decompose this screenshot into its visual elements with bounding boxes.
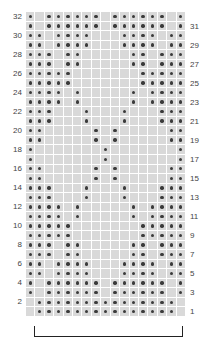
chart-cell-dot	[158, 212, 166, 221]
chart-cell-dot	[139, 41, 147, 50]
chart-cell-dot	[148, 231, 156, 240]
chart-cell-dot	[158, 79, 166, 88]
chart-cell-dot	[54, 260, 62, 269]
chart-cell-empty	[148, 165, 156, 174]
chart-cell-empty	[92, 184, 100, 193]
chart-cell-empty	[111, 203, 119, 212]
chart-cell-empty	[64, 165, 72, 174]
chart-cell-empty	[101, 269, 109, 278]
chart-cell-dot	[167, 41, 175, 50]
chart-cell-dot	[54, 41, 62, 50]
chart-cell-dot	[45, 98, 53, 107]
chart-cell-empty	[54, 193, 62, 202]
chart-cell-dot	[26, 107, 34, 116]
chart-cell-dot	[64, 22, 72, 31]
chart-cell-empty	[82, 69, 90, 78]
chart-cell-empty	[54, 50, 62, 59]
chart-cell-empty	[139, 107, 147, 116]
chart-cell-dot	[54, 31, 62, 40]
chart-cell-empty	[148, 107, 156, 116]
chart-cell-empty	[73, 174, 81, 183]
chart-cell-empty	[139, 193, 147, 202]
chart-cell-dot	[167, 117, 175, 126]
chart-cell-empty	[111, 231, 119, 240]
chart-cell-dot	[120, 269, 128, 278]
chart-cell-dot	[177, 145, 185, 154]
chart-cell-dot	[177, 165, 185, 174]
chart-cell-dot	[45, 222, 53, 231]
chart-cell-dot	[35, 184, 43, 193]
chart-cell-dot	[139, 250, 147, 259]
chart-cell-dot	[35, 98, 43, 107]
chart-cell-empty	[82, 98, 90, 107]
chart-cell-empty	[82, 165, 90, 174]
chart-cell-empty	[139, 117, 147, 126]
chart-cell-dot	[54, 298, 62, 307]
chart-cell-dot	[120, 41, 128, 50]
chart-cell-dot	[177, 126, 185, 135]
chart-cell-dot	[73, 260, 81, 269]
chart-cell-empty	[54, 126, 62, 135]
chart-cell-empty	[64, 212, 72, 221]
chart-cell-empty	[92, 41, 100, 50]
chart-cell-empty	[101, 22, 109, 31]
chart-cell-empty	[120, 203, 128, 212]
chart-cell-dot	[26, 231, 34, 240]
chart-cell-dot	[101, 145, 109, 154]
chart-cell-empty	[139, 203, 147, 212]
chart-cell-empty	[148, 145, 156, 154]
chart-cell-dot	[120, 22, 128, 31]
chart-cell-empty	[73, 145, 81, 154]
chart-cell-dot	[130, 279, 138, 288]
chart-cell-empty	[92, 231, 100, 240]
chart-cell-dot	[167, 212, 175, 221]
chart-cell-dot	[130, 307, 138, 316]
chart-cell-dot	[130, 269, 138, 278]
chart-cell-dot	[158, 279, 166, 288]
chart-cell-dot	[26, 212, 34, 221]
chart-cell-dot	[92, 279, 100, 288]
chart-cell-dot	[35, 193, 43, 202]
chart-cell-empty	[111, 212, 119, 221]
chart-cell-empty	[92, 145, 100, 154]
chart-cell-empty	[101, 117, 109, 126]
chart-cell-empty	[130, 231, 138, 240]
chart-cell-dot	[130, 288, 138, 297]
chart-cell-dot	[158, 98, 166, 107]
chart-cell-dot	[26, 184, 34, 193]
chart-cell-empty	[120, 69, 128, 78]
chart-cell-empty	[45, 155, 53, 164]
chart-cell-empty	[130, 126, 138, 135]
chart-cell-dot	[26, 22, 34, 31]
chart-cell-dot	[64, 12, 72, 21]
chart-cell-empty	[139, 98, 147, 107]
chart-cell-dot	[35, 241, 43, 250]
chart-cell-empty	[130, 184, 138, 193]
chart-cell-empty	[54, 155, 62, 164]
chart-cell-dot	[54, 279, 62, 288]
chart-cell-dot	[54, 288, 62, 297]
chart-cell-dot	[45, 212, 53, 221]
chart-cell-dot	[54, 79, 62, 88]
chart-cell-dot	[158, 222, 166, 231]
chart-cell-dot	[45, 203, 53, 212]
chart-cell-dot	[82, 279, 90, 288]
chart-cell-empty	[45, 260, 53, 269]
chart-cell-dot	[139, 22, 147, 31]
chart-cell-dot	[167, 165, 175, 174]
chart-cell-empty	[54, 145, 62, 154]
chart-cell-dot	[54, 22, 62, 31]
chart-cell-empty	[35, 155, 43, 164]
chart-cell-empty	[111, 117, 119, 126]
chart-cell-dot	[148, 212, 156, 221]
chart-cell-empty	[158, 145, 166, 154]
chart-cell-dot	[158, 50, 166, 59]
chart-cell-dot	[130, 98, 138, 107]
chart-cell-dot	[177, 50, 185, 59]
chart-cell-dot	[148, 31, 156, 40]
chart-cell-dot	[73, 12, 81, 21]
chart-cell-dot	[45, 184, 53, 193]
chart-cell-dot	[111, 288, 119, 297]
chart-cell-dot	[45, 279, 53, 288]
chart-cell-empty	[64, 203, 72, 212]
